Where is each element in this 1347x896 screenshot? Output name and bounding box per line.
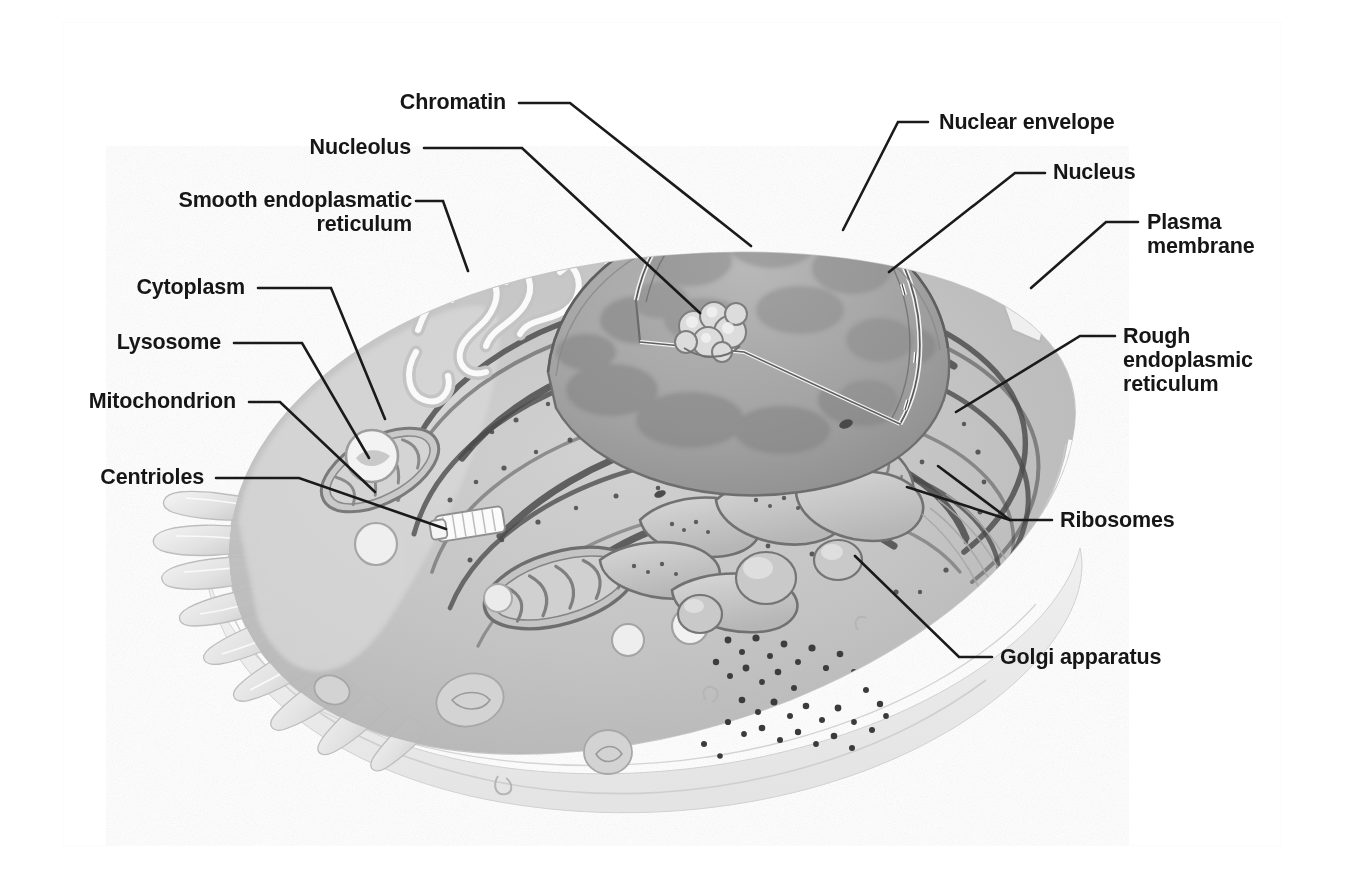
nucleus: [548, 178, 949, 495]
leader-line-chromatin: [519, 103, 751, 246]
label-golgi-apparatus: Golgi apparatus: [1000, 645, 1198, 669]
label-centrioles: Centrioles: [85, 465, 204, 489]
lysosome: [355, 523, 397, 565]
label-cytoplasm: Cytoplasm: [113, 275, 245, 299]
label-lysosome: Lysosome: [100, 330, 221, 354]
leader-line-smooth-endoplasmatic-reticulum: [416, 201, 468, 271]
label-smooth-endoplasmatic-reticulum: Smooth endoplasmatic reticulum: [160, 188, 412, 236]
lysosome: [612, 624, 644, 656]
label-plasma-membrane: Plasma membrane: [1147, 210, 1282, 258]
cell-body-group: [153, 178, 1082, 813]
label-chromatin: Chromatin: [378, 90, 506, 114]
label-mitochondrion: Mitochondrion: [58, 389, 236, 413]
leader-line-nucleus: [889, 173, 1045, 272]
lysosome: [484, 584, 512, 612]
leader-line-plasma-membrane: [1031, 222, 1138, 288]
figure-page: ChromatinNucleolusSmooth endoplasmatic r…: [0, 0, 1347, 896]
leader-line-nuclear-envelope: [843, 122, 928, 230]
label-nuclear-envelope: Nuclear envelope: [939, 110, 1148, 134]
label-nucleus: Nucleus: [1053, 160, 1153, 184]
cell-illustration: [0, 0, 1347, 896]
label-ribosomes: Ribosomes: [1060, 508, 1200, 532]
label-rough-endoplasmic-reticulum: Rough endoplasmic reticulum: [1123, 324, 1279, 396]
label-nucleolus: Nucleolus: [289, 135, 411, 159]
